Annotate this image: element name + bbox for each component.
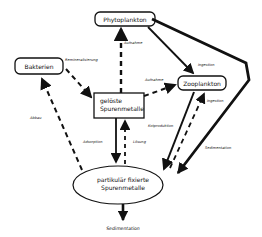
label-sedimentation-phyto: Sedimentation — [205, 146, 232, 150]
node-geloeste-spurenmetalle: gelöste Spurenmetalle — [94, 93, 144, 118]
bakterien-label: Bakterien — [25, 63, 54, 70]
label-loesung: Lösung — [133, 140, 147, 144]
node-bakterien: Bakterien — [15, 58, 63, 74]
node-phytoplankton: Phytoplankton — [95, 12, 155, 26]
label-aufnahme-phyto: Aufnahme — [123, 41, 143, 45]
label-abbau: Abbau — [29, 116, 42, 120]
label-sedimentation-bottom: Sedimentation — [106, 226, 140, 231]
diagram-canvas: Phytoplankton Bakterien Zooplankton gelö… — [0, 0, 262, 237]
node-partikulaer-fixierte-spurenmetalle: partikulär fixierte Spurenmetalle — [73, 166, 163, 204]
label-remineralisierung: Remineralisierung — [65, 58, 98, 62]
partikulaer-label-line1: partikulär fixierte — [97, 176, 149, 184]
label-aufnahme-zoo: Aufnahme — [144, 78, 164, 82]
edge-sedimentation-phyto — [152, 19, 249, 173]
edge-aufnahme-zoo — [144, 85, 175, 96]
phytoplankton-label: Phytoplankton — [103, 16, 146, 24]
node-zooplankton: Zooplankton — [178, 76, 226, 90]
edge-ingestion-part-zoo — [170, 94, 204, 168]
partikulaer-label-line2: Spurenmetalle — [101, 184, 145, 192]
zooplankton-label: Zooplankton — [183, 80, 221, 88]
edge-remineralisierung — [66, 69, 91, 97]
label-ingestion-phyto-zoo: Ingestion — [198, 63, 215, 67]
geloeste-label-line2: Spurenmetalle — [100, 105, 144, 113]
label-kotproduktion: Kotproduktion — [148, 124, 174, 128]
geloeste-label-line1: gelöste — [100, 97, 122, 105]
edge-abbau — [42, 79, 82, 170]
trace-metal-cycle-diagram: Phytoplankton Bakterien Zooplankton gelö… — [0, 0, 262, 237]
label-ingestion-part-zoo: Ingestion — [207, 99, 224, 103]
label-adsorption: Adsorption — [82, 140, 103, 144]
